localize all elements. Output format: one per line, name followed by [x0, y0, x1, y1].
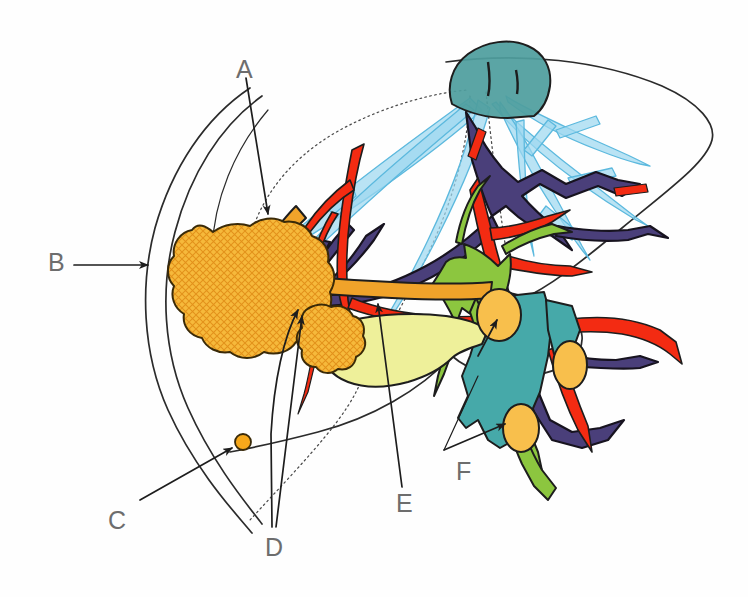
- label-B: B: [48, 250, 65, 275]
- leader-A: [246, 78, 268, 214]
- lymph-node-lower: [503, 404, 539, 452]
- small-tumor-mass: [297, 305, 365, 373]
- label-A: A: [236, 57, 253, 82]
- figure-canvas: A B C D E F: [0, 0, 748, 597]
- inferior-vena-cava: [450, 42, 551, 118]
- label-D: D: [265, 535, 284, 560]
- label-C: C: [108, 508, 127, 533]
- label-E: E: [396, 491, 413, 516]
- label-F: F: [456, 459, 472, 484]
- lymph-node-right: [553, 341, 587, 389]
- satellite-nodule: [235, 434, 251, 450]
- lymph-node-hilar: [477, 289, 521, 341]
